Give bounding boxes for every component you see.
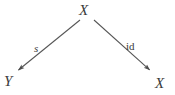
node-label-bottom-right: X [155, 76, 164, 91]
arrow-s [18, 20, 80, 70]
arrow-id [94, 20, 150, 70]
node-label-bottom-left: Y [4, 74, 12, 89]
commutative-diagram: X Y X s id [0, 0, 175, 95]
edge-label-id: id [126, 41, 135, 52]
node-label-top: X [79, 3, 88, 18]
edge-label-s: s [34, 43, 38, 54]
